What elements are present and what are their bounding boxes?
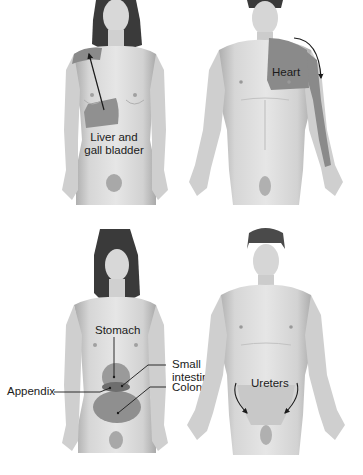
label-appendix: Appendix bbox=[7, 385, 55, 398]
label-heart: Heart bbox=[272, 66, 300, 79]
panel-digestive: Stomach Small intestine Colon Appendix bbox=[0, 225, 181, 475]
colon-pain-region bbox=[93, 391, 141, 423]
male-figure bbox=[181, 225, 363, 475]
label-liver-line2: gall bladder bbox=[84, 144, 144, 157]
male-figure bbox=[181, 0, 363, 215]
panel-ureters: Ureters bbox=[181, 225, 363, 475]
female-figure bbox=[0, 225, 181, 475]
label-liver-line1: Liver and bbox=[84, 131, 144, 144]
female-figure bbox=[0, 0, 181, 215]
panel-heart: Heart bbox=[181, 0, 363, 215]
label-liver-gallbladder: Liver and gall bladder bbox=[84, 131, 144, 157]
label-stomach: Stomach bbox=[95, 324, 140, 337]
panel-liver-gallbladder: Liver and gall bladder bbox=[0, 0, 181, 215]
label-ureters: Ureters bbox=[251, 377, 289, 390]
